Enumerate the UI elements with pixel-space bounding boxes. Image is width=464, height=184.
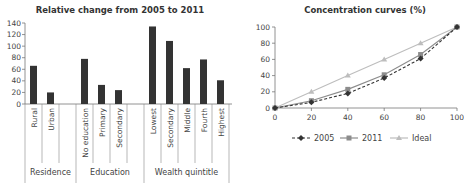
legend-item-ideal: Ideal xyxy=(390,134,431,143)
x-tick-label: 40 xyxy=(343,113,353,122)
y-tick-label: 20 xyxy=(260,87,270,96)
x-tick-label: 80 xyxy=(416,113,426,122)
x-tick-label: 20 xyxy=(307,113,317,122)
legend-label: 2011 xyxy=(362,134,382,143)
legend-item-2005: 2005 xyxy=(292,134,334,143)
y-tick-label: 0 xyxy=(265,104,270,113)
y-tick-label: 80 xyxy=(260,39,270,48)
series-line xyxy=(275,27,457,108)
x-tick-label: 60 xyxy=(379,113,389,122)
x-tick-label: 0 xyxy=(273,113,278,122)
y-tick-label: 60 xyxy=(260,55,270,64)
y-tick-label: 100 xyxy=(256,23,271,32)
legend-item-2011: 2011 xyxy=(340,134,382,143)
y-tick-label: 40 xyxy=(260,71,270,80)
figure: Relative change from 2005 to 20110204060… xyxy=(0,0,464,184)
legend-label: 2005 xyxy=(314,134,334,143)
legend-diamond-icon xyxy=(298,135,304,141)
x-tick-label: 100 xyxy=(450,113,464,122)
concentration-curves-line-chart: Concentration curves (%)0204060801000204… xyxy=(0,0,464,184)
series-ideal xyxy=(272,24,460,110)
legend-label: Ideal xyxy=(412,134,431,143)
chart-title: Concentration curves (%) xyxy=(304,5,426,15)
legend-square-icon xyxy=(347,136,352,141)
